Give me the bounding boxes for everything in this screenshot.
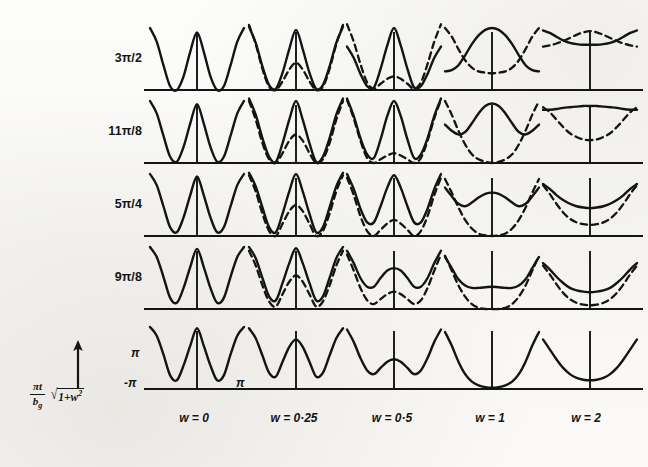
radicand-exponent: 2 [78,389,82,398]
panel-grid-svg [0,0,648,467]
column-label-4: w = 2 [540,412,632,424]
panel-r0-c2 [341,24,447,90]
panel-r1-c4 [537,105,643,163]
column-label-3: w = 1 [444,412,536,424]
y-tick-bottom-minus-pi: -π [124,377,137,389]
y-axis-caption: πt bg √ 1+w2 [30,381,84,411]
panel-r1-c0 [144,101,250,163]
panel-r3-c2 [341,251,447,309]
panel-r4-c1 [243,328,349,389]
fraction-denominator: bg [31,395,45,411]
column-label-1: w = 0·25 [248,412,340,424]
panel-r3-c4 [537,251,643,309]
square-root-expression: √ 1+w2 [49,388,84,403]
row-label-2: 5π/4 [78,198,142,211]
denominator-subscript: g [38,401,42,410]
panel-r4-c3 [439,331,545,389]
panel-r4-c4 [537,331,643,389]
y-axis-fraction: πt bg [30,381,45,411]
panels-group [144,24,643,389]
panel-r0-c4 [537,30,643,90]
x-tick-right-pi: π [236,377,245,389]
sqrt-icon: √ [51,388,58,401]
panel-r2-c2 [341,174,447,236]
fraction-numerator: πt [31,381,44,394]
panel-r1-c1 [243,99,349,164]
y-tick-top-pi: π [131,347,140,359]
panel-r4-c2 [341,329,447,389]
row-label-0: 3π/2 [78,52,142,65]
panel-r3-c1 [243,247,349,309]
panel-r4-c0 [144,327,250,389]
radicand: 1+w2 [57,388,84,403]
row-label-3: 9π/8 [78,271,142,284]
panel-r1-c3 [439,101,545,163]
panel-r0-c0 [144,28,250,91]
figure-root: 3π/2 11π/8 5π/4 9π/8 π -π π w = 0 w = 0·… [0,0,648,467]
panel-r2-c1 [243,173,349,237]
panel-r0-c3 [439,28,545,90]
panel-r2-c4 [537,178,643,236]
panel-r3-c0 [144,247,250,309]
column-label-0: w = 0 [148,412,240,424]
panel-r0-c1 [243,25,349,91]
panel-r3-c3 [439,251,545,309]
panel-r1-c2 [341,99,447,163]
panel-r2-c0 [144,174,250,236]
row-label-1: 11π/8 [72,125,142,138]
panel-r2-c3 [439,178,545,236]
column-label-2: w = 0·5 [346,412,438,424]
